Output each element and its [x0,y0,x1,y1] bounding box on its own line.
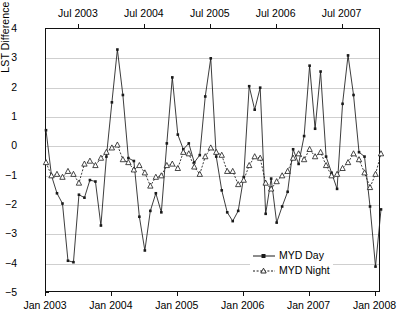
data-point [67,259,70,262]
data-point [138,215,141,218]
data-point [43,160,48,165]
data-point [347,54,350,57]
data-point [290,155,295,160]
data-point [319,70,322,73]
data-point [177,133,180,136]
data-point [297,163,300,166]
y-tick-label: −4 [0,258,17,269]
data-point [115,142,120,147]
data-point [220,189,223,192]
data-point [209,57,212,60]
legend-item-myd-day: MYD Day [253,248,330,263]
data-point [215,155,218,158]
data-point [82,161,87,166]
data-point [248,85,251,88]
y-tick-label: −1 [0,170,17,181]
data-point [104,149,109,154]
x-tick-label-bottom: Jan 2006 [209,299,277,311]
data-point [159,173,164,178]
data-point [253,108,256,111]
data-point [204,95,207,98]
data-point [369,205,372,208]
data-point [116,48,119,51]
data-point [345,160,350,165]
y-tick-label: −2 [0,199,17,210]
data-point [214,149,219,154]
data-point [126,160,131,165]
data-point [279,173,284,178]
data-point [54,171,59,176]
data-point [175,165,180,170]
data-point [89,179,92,182]
data-point [71,171,76,176]
data-point [149,210,152,213]
data-point [83,196,86,199]
data-point [308,64,311,67]
data-point [378,151,383,156]
data-point [94,180,97,183]
data-point [270,177,273,180]
x-tick-label-top: Jul 2004 [110,7,178,19]
data-point [170,161,175,166]
data-point [285,168,290,173]
data-point [49,173,54,178]
x-tick-label-top: Jul 2005 [176,7,244,19]
y-tick-label: 2 [0,82,17,93]
data-point [286,191,289,194]
data-point [56,192,59,195]
data-point [252,154,257,159]
legend-label-myd-day: MYD Day [279,248,324,263]
data-point [363,155,366,158]
data-point [144,249,147,252]
legend-label-myd-night: MYD Night [279,263,330,278]
y-tick-label: 3 [0,52,17,63]
legend-key-solid-square-icon [253,251,275,261]
data-point [61,202,64,205]
data-point [340,165,345,170]
data-point [131,167,136,172]
data-point [351,151,356,156]
data-point [281,205,284,208]
data-point [303,135,306,138]
data-point [247,163,252,168]
data-point [203,154,208,159]
data-point [237,210,240,213]
data-point [336,188,339,191]
y-tick-label: −5 [0,287,17,298]
x-tick-label-bottom: Jan 2007 [275,299,343,311]
data-point [166,142,169,145]
data-point [148,183,153,188]
data-point [312,154,317,159]
data-point [65,168,70,173]
data-point [208,145,213,150]
data-point [76,180,81,185]
data-point [380,208,383,211]
data-point [187,142,190,145]
data-point [198,154,201,157]
data-point [374,265,377,268]
data-point [275,221,278,224]
legend: MYD Day MYD Night [250,247,333,279]
data-point [307,146,312,151]
data-point [87,158,92,163]
data-point [155,192,158,195]
data-point [358,151,361,154]
data-point [109,145,114,150]
data-point [259,86,262,89]
data-point [314,127,317,130]
data-point [93,163,98,168]
data-point [186,151,191,156]
data-point [318,149,323,154]
data-point [192,164,197,169]
data-point [292,148,295,151]
legend-item-myd-night: MYD Night [253,263,330,278]
x-tick-label-bottom: Jan 2008 [341,299,401,311]
data-point [263,180,268,185]
data-point [72,261,75,264]
data-point [236,182,241,187]
legend-key-dotted-triangle-icon [253,266,275,276]
data-point [301,157,306,162]
data-point [274,179,279,184]
x-tick-label-top: Jul 2007 [308,7,376,19]
data-point [226,211,229,214]
